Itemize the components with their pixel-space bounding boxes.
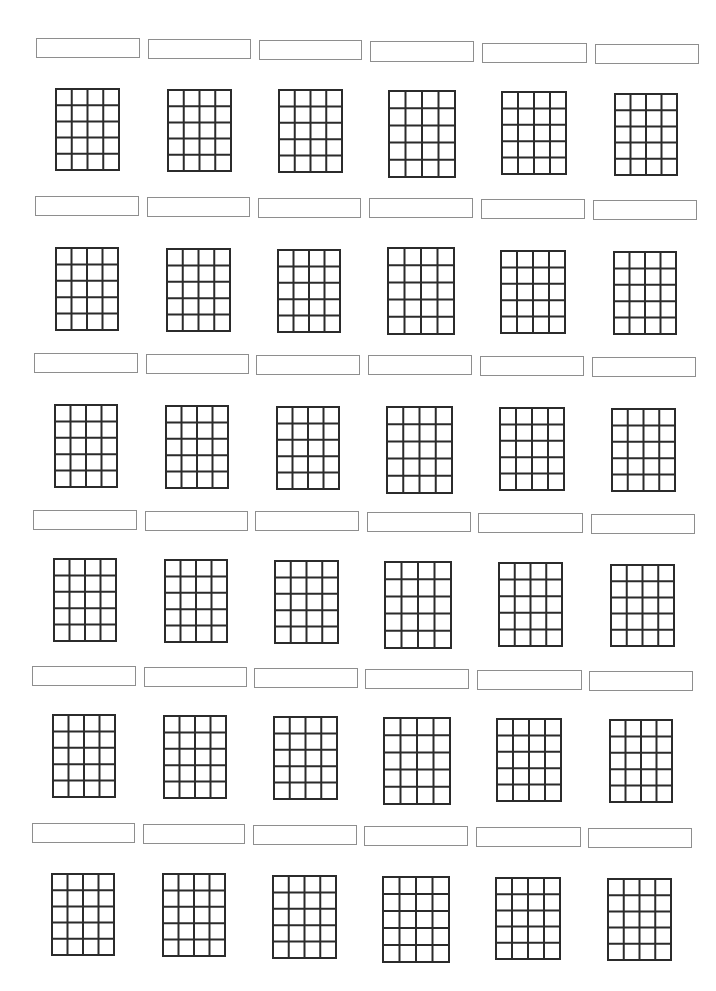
chord-name-box[interactable] — [32, 666, 136, 686]
fretboard-lines — [609, 719, 673, 803]
chord-fretboard-grid — [611, 408, 676, 492]
chord-name-box[interactable] — [144, 667, 247, 687]
chord-name-box[interactable] — [593, 200, 697, 220]
chord-fretboard-grid — [277, 249, 341, 333]
chord-fretboard-grid — [274, 560, 339, 644]
chord-fretboard-grid — [55, 88, 120, 171]
chord-fretboard-grid — [614, 93, 678, 176]
chord-fretboard-grid — [498, 562, 563, 647]
fretboard-lines — [499, 407, 565, 491]
chord-fretboard-grid — [382, 876, 450, 963]
chord-name-box[interactable] — [365, 669, 469, 689]
chord-fretboard-grid — [278, 89, 343, 173]
chord-fretboard-grid — [52, 714, 116, 798]
chord-fretboard-grid — [386, 406, 453, 494]
fretboard-lines — [500, 250, 566, 334]
chord-fretboard-grid — [607, 878, 672, 961]
chord-fretboard-grid — [387, 247, 455, 335]
chord-name-box[interactable] — [143, 824, 245, 844]
fretboard-lines — [498, 562, 563, 647]
fretboard-lines — [274, 560, 339, 644]
chord-fretboard-grid — [272, 875, 337, 959]
chord-fretboard-grid — [613, 251, 677, 335]
chord-fretboard-grid — [499, 407, 565, 491]
fretboard-lines — [384, 561, 452, 649]
fretboard-lines — [55, 247, 119, 331]
chord-name-box[interactable] — [595, 44, 699, 64]
fretboard-lines — [167, 89, 232, 172]
chord-name-box[interactable] — [32, 823, 135, 843]
fretboard-lines — [54, 404, 118, 488]
fretboard-lines — [383, 717, 451, 805]
fretboard-lines — [611, 408, 676, 492]
fretboard-lines — [272, 875, 337, 959]
chord-fretboard-grid — [495, 877, 561, 960]
chord-name-box[interactable] — [589, 671, 693, 691]
fretboard-lines — [501, 91, 567, 175]
chord-name-box[interactable] — [259, 40, 362, 60]
chord-name-box[interactable] — [33, 510, 137, 530]
chord-name-box[interactable] — [256, 355, 360, 375]
chord-name-box[interactable] — [253, 825, 357, 845]
chord-name-box[interactable] — [482, 43, 587, 63]
chord-name-box[interactable] — [35, 196, 139, 216]
chord-name-box[interactable] — [370, 41, 474, 62]
chord-name-box[interactable] — [480, 356, 584, 376]
fretboard-lines — [276, 406, 340, 490]
chord-name-box[interactable] — [588, 828, 692, 848]
chord-name-box[interactable] — [145, 511, 248, 531]
chord-name-box[interactable] — [148, 39, 251, 59]
chord-name-box[interactable] — [258, 198, 361, 218]
chord-name-box[interactable] — [591, 514, 695, 534]
chord-name-box[interactable] — [481, 199, 585, 219]
chord-fretboard-grid — [167, 89, 232, 172]
chord-fretboard-grid — [55, 247, 119, 331]
chord-name-box[interactable] — [34, 353, 138, 373]
chord-name-box[interactable] — [367, 512, 471, 532]
chord-fretboard-grid — [53, 558, 117, 642]
chord-fretboard-grid — [51, 873, 115, 956]
chord-chart-sheet — [0, 0, 716, 991]
chord-fretboard-grid — [163, 715, 227, 799]
chord-name-box[interactable] — [368, 355, 472, 375]
chord-fretboard-grid — [383, 717, 451, 805]
chord-fretboard-grid — [610, 564, 675, 647]
fretboard-lines — [610, 564, 675, 647]
fretboard-lines — [614, 93, 678, 176]
chord-fretboard-grid — [54, 404, 118, 488]
fretboard-lines — [51, 873, 115, 956]
fretboard-lines — [162, 873, 226, 957]
chord-name-box[interactable] — [147, 197, 250, 217]
chord-fretboard-grid — [164, 559, 228, 643]
fretboard-lines — [166, 248, 231, 332]
chord-fretboard-grid — [500, 250, 566, 334]
chord-name-box[interactable] — [477, 670, 582, 690]
chord-fretboard-grid — [273, 716, 338, 800]
chord-fretboard-grid — [501, 91, 567, 175]
chord-name-box[interactable] — [146, 354, 249, 374]
fretboard-lines — [164, 559, 228, 643]
chord-name-box[interactable] — [369, 198, 473, 218]
fretboard-lines — [607, 878, 672, 961]
fretboard-lines — [613, 251, 677, 335]
chord-fretboard-grid — [384, 561, 452, 649]
chord-fretboard-grid — [162, 873, 226, 957]
fretboard-lines — [387, 247, 455, 335]
chord-name-box[interactable] — [476, 827, 581, 847]
fretboard-lines — [278, 89, 343, 173]
fretboard-lines — [165, 405, 229, 489]
chord-name-box[interactable] — [255, 511, 359, 531]
fretboard-lines — [53, 558, 117, 642]
chord-name-box[interactable] — [36, 38, 140, 58]
chord-fretboard-grid — [609, 719, 673, 803]
chord-fretboard-grid — [496, 718, 562, 802]
chord-name-box[interactable] — [592, 357, 696, 377]
chord-fretboard-grid — [165, 405, 229, 489]
chord-fretboard-grid — [166, 248, 231, 332]
fretboard-lines — [55, 88, 120, 171]
fretboard-lines — [495, 877, 561, 960]
chord-name-box[interactable] — [478, 513, 583, 533]
chord-name-box[interactable] — [364, 826, 468, 846]
chord-name-box[interactable] — [254, 668, 358, 688]
chord-fretboard-grid — [388, 90, 456, 178]
